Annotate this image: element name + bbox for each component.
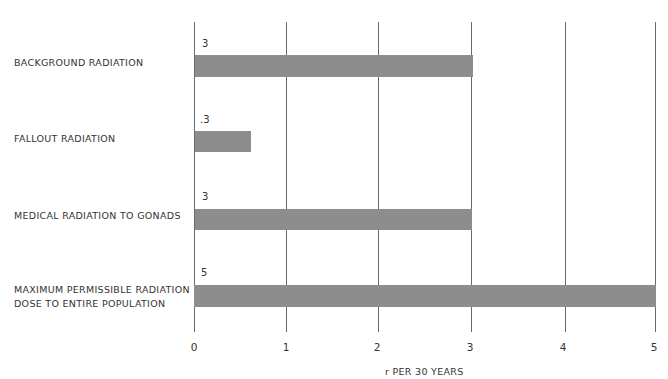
- x-tick-0: 0: [191, 341, 198, 353]
- category-label-maximum-line2: DOSE TO ENTIRE POPULATION: [14, 297, 165, 311]
- bar-background-radiation: [195, 55, 473, 77]
- x-tick-3: 3: [467, 341, 474, 353]
- bar-medical-radiation: [195, 209, 472, 230]
- category-label-maximum-line1: MAXIMUM PERMISSIBLE RADIATION: [14, 283, 190, 297]
- x-tick-2: 2: [374, 341, 381, 353]
- value-label-fallout: .3: [200, 114, 210, 125]
- x-tick-1: 1: [283, 341, 290, 353]
- x-axis-label: r PER 30 YEARS: [385, 366, 464, 377]
- x-tick-5: 5: [651, 341, 658, 353]
- bar-maximum-permissible: [194, 285, 656, 307]
- category-label-fallout: FALLOUT RADIATION: [14, 132, 115, 146]
- category-label-background: BACKGROUND RADIATION: [14, 56, 143, 70]
- value-label-medical: 3: [202, 191, 208, 202]
- value-label-background: 3: [202, 38, 208, 49]
- category-label-medical: MEDICAL RADIATION TO GONADS: [14, 209, 181, 223]
- x-tick-4: 4: [560, 341, 567, 353]
- value-label-maximum: 5: [201, 267, 207, 278]
- bar-fallout-radiation: [195, 131, 251, 152]
